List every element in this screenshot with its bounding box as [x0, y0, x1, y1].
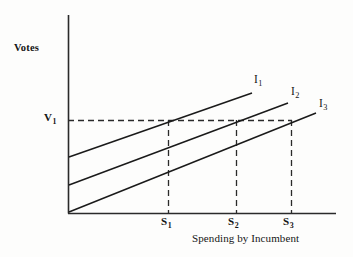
series-line-i1: [69, 93, 252, 157]
chart-figure: Votes V1 S1 S2 S3 Spending by Incumbent …: [0, 0, 353, 257]
x-tick-label-s2-subscript: 2: [234, 221, 238, 230]
x-tick-label-s1-subscript: 1: [167, 221, 171, 230]
x-tick-label-s1: S1: [161, 216, 172, 230]
y-tick-label-v1-subscript: 1: [52, 117, 56, 126]
x-axis-title: Spending by Incumbent: [192, 233, 299, 244]
y-tick-label-v1-base: V: [44, 111, 52, 123]
chart-canvas: [0, 0, 353, 257]
y-tick-label-v1: V1: [44, 112, 56, 126]
x-tick-label-s2: S2: [228, 216, 239, 230]
x-tick-label-s3-subscript: 3: [289, 221, 293, 230]
series-lines: [69, 93, 316, 212]
series-label-i1: I1: [254, 74, 262, 89]
series-label-i3: I3: [319, 98, 327, 113]
series-label-i1-subscript: 1: [258, 79, 263, 88]
series-line-i2: [69, 103, 288, 185]
spending-drop-lines: [169, 120, 292, 213]
series-line-i3: [69, 113, 316, 212]
series-label-i3-subscript: 3: [323, 103, 328, 112]
axes: [68, 15, 336, 214]
y-axis-title: Votes: [14, 43, 39, 54]
series-label-i2: I2: [291, 86, 299, 101]
x-tick-label-s3: S3: [283, 216, 294, 230]
series-label-i2-subscript: 2: [295, 91, 300, 100]
